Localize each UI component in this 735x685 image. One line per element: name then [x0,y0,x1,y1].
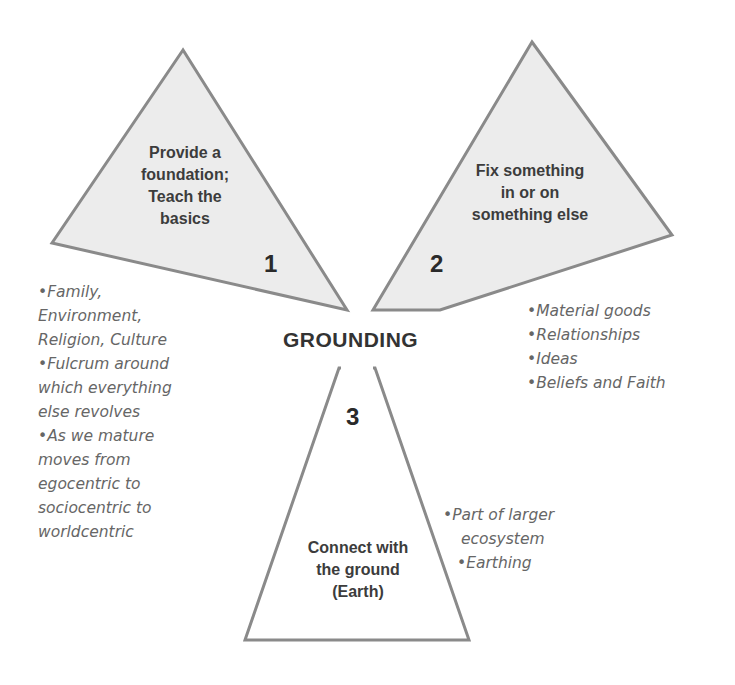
section-3-number: 3 [346,403,359,431]
label-line: Connect with [278,537,438,559]
label-line: Teach the [115,186,255,208]
section-2-bullets: •Material goods •Relationships •Ideas •B… [527,299,666,395]
section-1-label: Provide a foundation; Teach the basics [115,142,255,230]
label-line: (Earth) [278,581,438,603]
section-2-label: Fix something in or on something else [455,160,605,226]
bullet-line: egocentric to [38,472,172,496]
section-1-bullets: •Family, Environment, Religion, Culture … [38,280,172,544]
bullet-line: •Fulcrum around [38,352,172,376]
bullet-line: Religion, Culture [38,328,172,352]
bullet-line: •Relationships [527,323,666,347]
bullet-line: sociocentric to [38,496,172,520]
bullet-line: worldcentric [38,520,172,544]
label-line: something else [455,204,605,226]
bullet-line: •Beliefs and Faith [527,371,666,395]
bullet-line: else revolves [38,400,172,424]
bullet-line: moves from [38,448,172,472]
label-line: Fix something [455,160,605,182]
section-3-bullets: •Part of larger ecosystem •Earthing [443,503,554,575]
label-line: basics [115,208,255,230]
bullet-line: •As we mature [38,424,172,448]
bullet-line: •Earthing [443,551,554,575]
label-line: foundation; [115,164,255,186]
bullet-line: ecosystem [443,527,554,551]
bullet-line: •Part of larger [443,503,554,527]
section-2-number: 2 [430,250,443,278]
label-line: Provide a [115,142,255,164]
section-1-number: 1 [264,250,277,278]
bullet-line: which everything [38,376,172,400]
label-line: the ground [278,559,438,581]
bullet-line: •Material goods [527,299,666,323]
bullet-line: •Ideas [527,347,666,371]
center-title: GROUNDING [283,328,418,352]
section-3-label: Connect with the ground (Earth) [278,537,438,603]
label-line: in or on [455,182,605,204]
bullet-line: •Family, [38,280,172,304]
grounding-diagram: Provide a foundation; Teach the basics 1… [0,0,735,685]
bullet-line: Environment, [38,304,172,328]
